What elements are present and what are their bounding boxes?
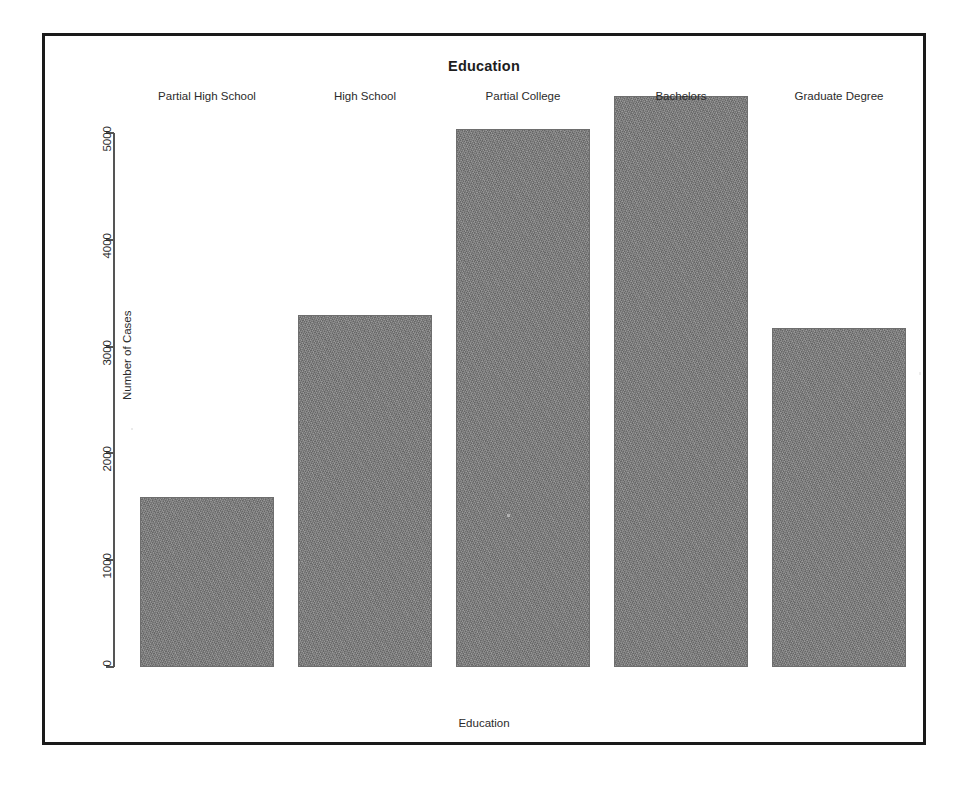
plot-area: 010002000300040005000 Number of Cases Pa… xyxy=(113,76,903,667)
y-axis-tick-label-text: 5000 xyxy=(101,126,113,152)
y-axis-tick-label-text: 1000 xyxy=(101,553,113,579)
x-axis-tick-label: Bachelors xyxy=(655,90,706,102)
bar xyxy=(772,328,906,667)
y-axis-tick-label-text: 4000 xyxy=(101,233,113,259)
x-axis-tick-label: Graduate Degree xyxy=(795,90,884,102)
chart-canvas: Education 010002000300040005000 Number o… xyxy=(45,36,923,742)
y-axis-tick-label-text: 2000 xyxy=(101,446,113,472)
scan-artifact-top xyxy=(120,0,820,5)
x-axis-tick-label: Partial College xyxy=(486,90,561,102)
chart-frame: Education 010002000300040005000 Number o… xyxy=(42,33,926,745)
scan-speckle xyxy=(919,372,921,375)
bar xyxy=(298,315,432,667)
y-axis-line xyxy=(113,133,115,667)
bar xyxy=(456,129,590,667)
y-axis-title: Number of Cases xyxy=(121,311,133,400)
y-axis-tick-label-text: 3000 xyxy=(101,340,113,366)
y-axis-tick-label-text: 0 xyxy=(101,660,113,666)
bar xyxy=(614,96,748,667)
x-axis-tick-label: Partial High School xyxy=(158,90,256,102)
bar xyxy=(140,497,274,667)
chart-title: Education xyxy=(45,58,923,74)
x-axis-tick-label: High School xyxy=(334,90,396,102)
x-axis-title: Education xyxy=(45,717,923,729)
